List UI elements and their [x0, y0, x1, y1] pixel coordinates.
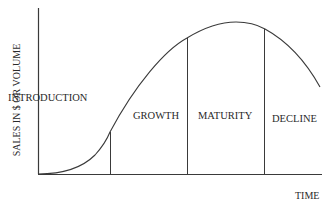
stage-label-growth: GROWTH: [133, 110, 179, 121]
product-life-cycle-diagram: INTRODUCTION GROWTH MATURITY DECLINE SAL…: [0, 0, 334, 208]
y-axis-label: SALES IN $ OR VOLUME: [11, 44, 22, 157]
x-axis-label: TIME: [295, 190, 319, 201]
stage-label-maturity: MATURITY: [198, 110, 253, 121]
stage-label-decline: DECLINE: [272, 113, 317, 124]
